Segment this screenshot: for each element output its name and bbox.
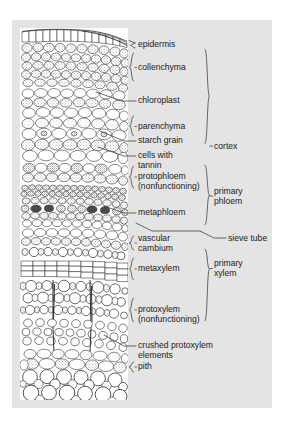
bracket-primary-xylem xyxy=(205,249,210,321)
bracket-metaxylem xyxy=(129,258,133,280)
leader-starch-grain xyxy=(100,131,136,141)
bracket-protoxylem xyxy=(129,298,133,322)
annotation-layer xyxy=(0,0,281,427)
leader-metaphloem xyxy=(104,206,136,213)
bracket-cortex xyxy=(205,49,210,144)
bracket-collenchyma xyxy=(129,53,133,81)
bracket-primary-phloem xyxy=(205,165,210,225)
stem-cross-section-figure: epidermis collenchyma chloroplast parenc… xyxy=(0,0,281,427)
bracket-vascular-cambium xyxy=(129,236,133,250)
leader-chloroplast xyxy=(96,92,136,101)
bracket-parenchyma xyxy=(129,116,133,136)
bracket-epidermis xyxy=(131,43,135,48)
leader-cells-with-tannin xyxy=(98,147,136,156)
leader-crushed-protoxylem xyxy=(104,335,136,346)
bracket-pith xyxy=(129,362,133,372)
bracket-protophloem xyxy=(129,166,133,188)
leader-sieve-tube xyxy=(200,231,226,238)
